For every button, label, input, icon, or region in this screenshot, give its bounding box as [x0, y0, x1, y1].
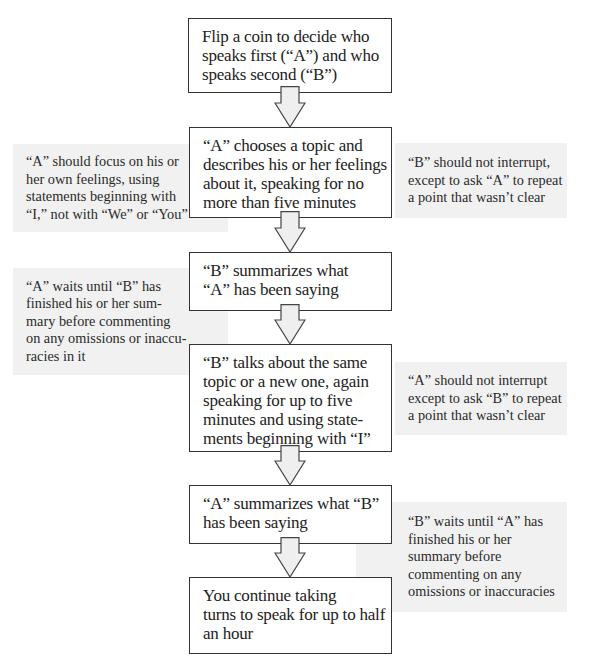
step-box-flip-coin: Flip a coin to decide who speaks first (…	[188, 18, 392, 93]
down-arrow-icon	[274, 537, 306, 578]
note-line: “B” should not interrupt,	[408, 154, 562, 172]
note-line: a point that wasn’t clear	[408, 189, 562, 207]
note-line: a point that wasn’t clear	[408, 407, 562, 425]
note-line: commenting on any	[408, 566, 555, 584]
step-line: speaks first (“A”) and who	[202, 46, 381, 65]
step-box-continue-turns: You continue taking turns to speak for u…	[189, 577, 392, 654]
note-line: “I,” not with “We” or “You”	[26, 206, 188, 224]
note-line: finished his or her	[408, 531, 555, 549]
step-box-a-chooses-topic: “A” chooses a topic and describes his or…	[189, 127, 392, 218]
down-arrow-icon	[274, 86, 306, 128]
note-line: mary before commenting	[26, 313, 186, 331]
step-line: speaks second (“B”)	[202, 65, 381, 84]
step-line: topic or a new one, again	[203, 372, 381, 391]
step-line: an hour	[203, 624, 381, 643]
note-a-no-interrupt: “A” should not interrupt except to ask “…	[395, 362, 567, 435]
note-line: on any omissions or inaccu-	[26, 330, 186, 348]
note-line: statements beginning with	[26, 188, 188, 206]
note-line: finished his or her sum-	[26, 295, 186, 313]
step-line: “A” chooses a topic and	[203, 136, 381, 155]
step-line: turns to speak for up to half	[203, 605, 381, 624]
down-arrow-icon	[274, 445, 306, 486]
step-line: more than five minutes	[203, 193, 381, 212]
step-line: “A” has been saying	[203, 280, 381, 299]
step-line: “A” summarizes what “B”	[203, 494, 381, 513]
note-line: except to ask “B” to repeat	[408, 390, 562, 408]
step-line: You continue taking	[203, 586, 381, 605]
note-line: “A” should focus on his or	[26, 153, 188, 171]
down-arrow-icon	[274, 304, 306, 345]
step-line: speaking for up to five	[203, 391, 381, 410]
note-line: omissions or inaccuracies	[408, 583, 555, 601]
step-line: has been saying	[203, 513, 381, 532]
down-arrow-icon	[274, 211, 306, 253]
step-box-b-summarizes: “B” summarizes what “A” has been saying	[189, 252, 392, 311]
note-line: her own feelings, using	[26, 171, 188, 189]
note-line: racies in it	[26, 348, 186, 366]
step-box-a-summarizes: “A” summarizes what “B” has been saying	[189, 485, 392, 544]
note-line: “A” waits until “B” has	[26, 278, 186, 296]
note-line: except to ask “A” to repeat	[408, 172, 562, 190]
step-line: describes his or her feelings	[203, 155, 381, 174]
step-line: “B” summarizes what	[203, 261, 381, 280]
step-line: Flip a coin to decide who	[202, 27, 381, 46]
step-box-b-talks: “B” talks about the same topic or a new …	[189, 344, 392, 452]
note-line: “A” should not interrupt	[408, 372, 562, 390]
note-line: “B” waits until “A” has	[408, 513, 555, 531]
step-line: minutes and using state-	[203, 410, 381, 429]
step-line: about it, speaking for no	[203, 174, 381, 193]
note-line: summary before	[408, 548, 555, 566]
note-b-no-interrupt: “B” should not interrupt, except to ask …	[395, 143, 567, 218]
step-line: “B” talks about the same	[203, 353, 381, 372]
